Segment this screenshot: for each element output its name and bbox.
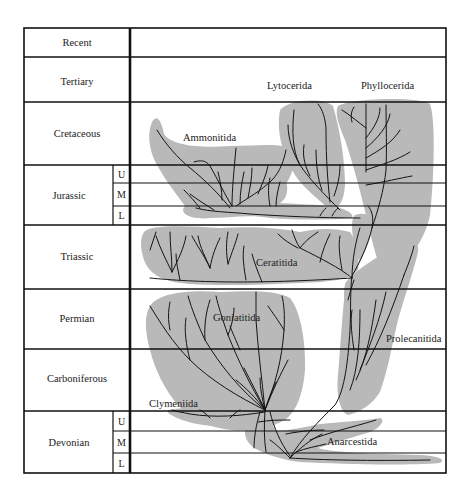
- devonian-sub-l: L: [118, 458, 124, 469]
- taxon-label-anarcestida: Anarcestida: [327, 436, 377, 447]
- devonian-sub-m: M: [117, 437, 126, 448]
- period-label-devonian: Devonian: [49, 437, 91, 448]
- taxon-label-goniatitida: Goniatitida: [213, 312, 261, 323]
- period-label-triassic: Triassic: [61, 251, 94, 262]
- range-shapes: [141, 99, 442, 465]
- period-label-jurassic: Jurassic: [52, 190, 86, 201]
- taxon-label-prolecanitida: Prolecanitida: [386, 333, 442, 344]
- taxon-label-lytocerida: Lytocerida: [267, 80, 312, 91]
- devonian-sub-u: U: [118, 416, 126, 427]
- period-label-permian: Permian: [60, 313, 96, 324]
- ceratitida-range: [141, 226, 359, 285]
- jurassic-sub-l: L: [118, 210, 124, 221]
- taxon-label-ammonitida: Ammonitida: [183, 132, 236, 143]
- period-label-carboniferous: Carboniferous: [47, 373, 107, 384]
- jurassic-sub-u: U: [118, 169, 126, 180]
- period-label-recent: Recent: [62, 37, 91, 48]
- period-label-cretaceous: Cretaceous: [54, 128, 101, 139]
- taxon-label-clymeniida: Clymeniida: [149, 398, 198, 409]
- jurassic-sub-m: M: [117, 189, 126, 200]
- taxon-label-phyllocerida: Phyllocerida: [361, 80, 414, 91]
- phylogeny-diagram: Recent Tertiary Cretaceous Jurassic Tria…: [0, 0, 469, 496]
- taxon-label-ceratitida: Ceratitida: [256, 257, 298, 268]
- period-label-tertiary: Tertiary: [60, 76, 94, 87]
